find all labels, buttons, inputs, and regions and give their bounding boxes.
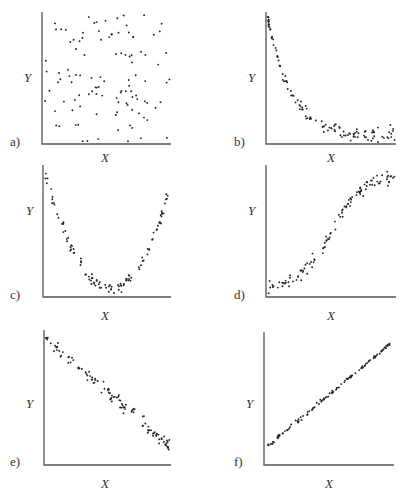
- data-point: [331, 390, 333, 392]
- data-point: [123, 283, 125, 285]
- data-point: [78, 94, 80, 96]
- data-point: [131, 61, 133, 63]
- scatter-plot-c: [0, 165, 200, 330]
- data-point: [80, 260, 82, 262]
- data-point: [103, 80, 105, 82]
- data-point: [343, 381, 345, 383]
- data-point: [300, 270, 302, 272]
- y-axis-label: Y: [26, 203, 33, 219]
- data-point: [99, 281, 101, 283]
- data-point: [47, 177, 49, 179]
- data-point: [111, 401, 113, 403]
- data-point: [392, 128, 394, 130]
- data-point: [143, 260, 145, 262]
- data-point: [386, 171, 388, 173]
- data-point: [295, 101, 297, 103]
- data-point: [79, 74, 81, 76]
- data-point: [130, 277, 132, 279]
- data-point: [340, 134, 342, 136]
- data-point: [111, 33, 113, 35]
- data-point: [70, 246, 72, 248]
- data-point: [163, 212, 165, 214]
- data-point: [147, 426, 149, 428]
- data-point: [97, 380, 99, 382]
- data-point: [338, 214, 340, 216]
- data-point: [371, 184, 373, 186]
- data-point: [51, 202, 53, 204]
- data-point: [267, 16, 269, 18]
- data-point: [299, 108, 301, 110]
- data-point: [350, 140, 352, 142]
- data-point: [305, 118, 307, 120]
- data-point: [316, 402, 318, 404]
- data-point: [345, 135, 347, 137]
- data-point: [313, 261, 315, 263]
- data-point: [100, 392, 102, 394]
- data-point: [45, 60, 47, 62]
- data-point: [156, 229, 158, 231]
- data-point: [329, 236, 331, 238]
- data-point: [118, 289, 120, 291]
- data-point: [341, 212, 343, 214]
- data-point: [363, 135, 365, 137]
- data-point: [296, 279, 298, 281]
- data-point: [90, 280, 92, 282]
- data-point: [132, 36, 134, 38]
- data-point: [325, 397, 327, 399]
- data-point: [88, 93, 90, 95]
- data-point: [67, 362, 69, 364]
- data-point: [122, 407, 124, 409]
- data-point: [300, 101, 302, 103]
- data-point: [353, 134, 355, 136]
- data-point: [88, 371, 90, 373]
- data-point: [275, 50, 277, 52]
- data-point: [111, 395, 113, 397]
- data-point: [147, 253, 149, 255]
- data-point: [334, 124, 336, 126]
- data-point: [166, 442, 168, 444]
- data-point: [287, 281, 289, 283]
- data-point: [288, 428, 290, 430]
- data-point: [152, 433, 154, 435]
- data-point: [132, 96, 134, 98]
- data-point: [305, 115, 307, 117]
- data-point: [44, 100, 46, 102]
- data-point: [360, 189, 362, 191]
- data-point: [356, 191, 358, 193]
- data-point: [351, 375, 353, 377]
- data-point: [349, 197, 351, 199]
- data-point: [73, 248, 75, 250]
- data-point: [281, 282, 283, 284]
- y-axis-label: Y: [26, 396, 33, 412]
- data-point: [273, 44, 275, 46]
- data-point: [120, 407, 122, 409]
- data-point: [374, 184, 376, 186]
- data-point: [117, 396, 119, 398]
- data-point: [367, 139, 369, 141]
- data-point: [73, 39, 75, 41]
- data-point: [68, 356, 70, 358]
- data-point: [144, 80, 146, 82]
- data-point: [118, 285, 120, 287]
- data-point: [330, 127, 332, 129]
- data-point: [272, 443, 274, 445]
- data-point: [326, 240, 328, 242]
- data-point: [336, 387, 338, 389]
- data-point: [355, 194, 357, 196]
- data-point: [163, 436, 165, 438]
- data-point: [57, 342, 59, 344]
- data-point: [358, 192, 360, 194]
- data-point: [364, 131, 366, 133]
- data-point: [354, 372, 356, 374]
- data-point: [366, 362, 368, 364]
- data-point: [278, 435, 280, 437]
- data-point: [318, 403, 320, 405]
- data-point: [299, 105, 301, 107]
- data-point: [121, 403, 123, 405]
- data-point: [100, 76, 102, 78]
- data-point: [322, 247, 324, 249]
- data-point: [143, 14, 145, 16]
- data-point: [325, 236, 327, 238]
- data-point: [155, 107, 157, 109]
- data-point: [390, 133, 392, 135]
